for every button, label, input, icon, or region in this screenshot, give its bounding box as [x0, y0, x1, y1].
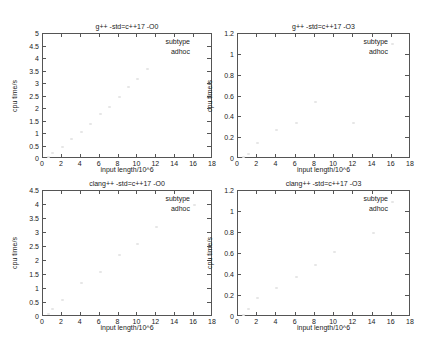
x-tick-label: 4 — [273, 160, 277, 167]
y-tick-mark — [207, 274, 211, 275]
x-tick-label: 4 — [273, 318, 277, 325]
y-tick-mark — [237, 137, 241, 138]
data-point — [108, 106, 111, 108]
y-tick-mark — [405, 75, 409, 76]
x-tick-label: 10 — [329, 318, 337, 325]
y-tick-mark — [207, 71, 211, 72]
x-tick-label: 0 — [40, 160, 44, 167]
y-tick-label: 4 — [35, 55, 39, 62]
legend-entry: adhoc — [150, 204, 190, 214]
x-tick-label: 6 — [293, 160, 297, 167]
x-tick-mark — [256, 312, 257, 316]
x-tick-label: 6 — [97, 160, 101, 167]
y-tick-label: 2.5 — [29, 92, 39, 99]
x-tick-mark — [391, 190, 392, 194]
y-tick-label: 1.2 — [224, 187, 234, 194]
y-tick-mark — [237, 96, 241, 97]
data-point — [295, 122, 298, 124]
x-tick-label: 12 — [151, 160, 159, 167]
data-point — [193, 204, 196, 206]
x-tick-mark — [61, 154, 62, 158]
y-tick-mark — [405, 274, 409, 275]
x-tick-label: 2 — [59, 318, 63, 325]
x-tick-mark — [256, 190, 257, 194]
x-tick-label: 4 — [78, 160, 82, 167]
y-tick-mark — [405, 116, 409, 117]
x-tick-mark — [136, 190, 137, 194]
y-tick-label: 0.2 — [224, 292, 234, 299]
x-tick-mark — [295, 190, 296, 194]
y-axis-label: cpu time/s — [206, 237, 213, 269]
y-tick-mark — [42, 133, 46, 134]
y-axis-label: cpu time/s — [11, 237, 18, 269]
y-tick-mark — [405, 232, 409, 233]
y-tick-mark — [42, 71, 46, 72]
y-tick-mark — [207, 133, 211, 134]
y-tick-mark — [42, 46, 46, 47]
data-point — [242, 314, 245, 316]
y-tick-mark — [42, 83, 46, 84]
x-tick-mark — [352, 154, 353, 158]
x-tick-label: 4 — [78, 318, 82, 325]
y-tick-label: 1.5 — [29, 117, 39, 124]
y-tick-label: 0.5 — [29, 299, 39, 306]
x-tick-mark — [136, 312, 137, 316]
y-tick-mark — [42, 288, 46, 289]
data-point — [118, 96, 121, 98]
y-tick-label: 1.5 — [29, 271, 39, 278]
legend: subtypeadhoc — [150, 194, 190, 214]
x-tick-mark — [275, 312, 276, 316]
y-tick-mark — [42, 274, 46, 275]
y-tick-label: 0.8 — [224, 229, 234, 236]
x-tick-label: 14 — [368, 160, 376, 167]
y-tick-mark — [207, 146, 211, 147]
legend-title: subtype — [348, 194, 388, 204]
y-tick-mark — [237, 116, 241, 117]
legend: subtypeadhoc — [348, 37, 388, 57]
x-tick-mark — [99, 190, 100, 194]
chart-title: clang++ -std=c++17 -O3 — [286, 180, 362, 187]
x-tick-label: 14 — [368, 318, 376, 325]
x-tick-mark — [295, 33, 296, 37]
data-point — [372, 232, 375, 234]
x-tick-label: 8 — [312, 160, 316, 167]
y-tick-mark — [207, 218, 211, 219]
x-tick-label: 16 — [387, 160, 395, 167]
y-tick-mark — [42, 218, 46, 219]
x-tick-mark — [99, 154, 100, 158]
y-tick-mark — [42, 302, 46, 303]
x-tick-mark — [333, 154, 334, 158]
y-tick-mark — [42, 232, 46, 233]
y-tick-label: 5 — [35, 30, 39, 37]
x-tick-label: 18 — [406, 318, 414, 325]
x-tick-mark — [155, 312, 156, 316]
x-tick-mark — [275, 33, 276, 37]
y-tick-label: 0.4 — [224, 113, 234, 120]
x-tick-label: 2 — [254, 160, 258, 167]
x-tick-label: 10 — [329, 160, 337, 167]
y-tick-label: 4.5 — [29, 187, 39, 194]
data-point — [146, 68, 149, 70]
x-tick-label: 0 — [235, 318, 239, 325]
x-axis-label: input length/10^6 — [297, 166, 350, 173]
y-tick-label: 0.5 — [29, 142, 39, 149]
y-tick-mark — [207, 288, 211, 289]
x-tick-mark — [372, 312, 373, 316]
x-tick-mark — [136, 154, 137, 158]
y-tick-label: 0.4 — [224, 271, 234, 278]
y-tick-mark — [405, 137, 409, 138]
y-tick-label: 0.6 — [224, 92, 234, 99]
y-tick-label: 4 — [35, 201, 39, 208]
y-tick-label: 0 — [230, 313, 234, 320]
legend-title: subtype — [150, 37, 190, 47]
x-tick-mark — [80, 312, 81, 316]
x-tick-mark — [275, 190, 276, 194]
x-tick-mark — [314, 33, 315, 37]
data-point — [61, 299, 64, 301]
y-tick-label: 2 — [35, 105, 39, 112]
y-tick-mark — [405, 253, 409, 254]
y-tick-mark — [237, 54, 241, 55]
y-tick-mark — [207, 302, 211, 303]
x-tick-mark — [372, 154, 373, 158]
x-tick-label: 14 — [170, 160, 178, 167]
